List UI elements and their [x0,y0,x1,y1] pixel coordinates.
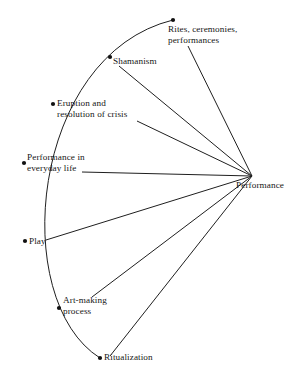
node-dot-play [23,239,27,243]
performance-fan-diagram: Rites, ceremonies, performancesShamanism… [0,0,305,382]
node-label-ritualization: Ritualization [104,352,153,363]
node-label-rites: Rites, ceremonies, performances [168,24,237,45]
node-label-shamanism: Shamanism [113,56,157,67]
node-dot-eruption [51,102,55,106]
spoke-line-eruption [137,121,252,176]
node-dot-ritualization [98,356,102,360]
node-dot-shamanism [108,55,112,59]
hub-node-label: Performance [236,180,284,191]
node-label-everyday: Performance in everyday life [27,152,85,173]
spoke-line-shamanism [119,66,252,176]
spoke-line-ritualization [110,176,252,356]
node-dot-artmaking [57,306,61,310]
node-dot-rites [171,18,175,22]
node-label-play: Play [29,236,46,247]
node-label-artmaking: Art-making process [63,295,107,316]
spoke-line-everyday [82,172,252,176]
node-label-eruption: Eruption and resolution of crisis [57,98,127,119]
spoke-line-rites [188,46,252,176]
spoke-line-artmaking [92,176,252,297]
node-dot-everyday [22,161,26,165]
spoke-line-play [46,176,252,240]
